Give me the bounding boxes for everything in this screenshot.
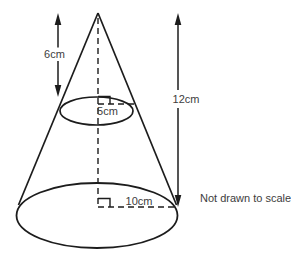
base-ellipse <box>17 183 178 248</box>
cone-diagram-canvas: 6cm 12cm 5cm 10cm Not drawn to scale <box>0 0 291 261</box>
not-drawn-to-scale-note: Not drawn to scale <box>200 192 291 204</box>
arrow-up-icon <box>175 13 182 25</box>
right-angle-marker-base <box>98 199 110 208</box>
cross-section-radius-label: 5cm <box>97 105 118 117</box>
arrow-up-icon <box>55 13 62 25</box>
base-radius-label: 10cm <box>126 195 153 207</box>
upper-height-label: 6cm <box>44 48 65 60</box>
cone-diagram: 6cm 12cm 5cm 10cm Not drawn to scale <box>0 0 291 261</box>
total-height-label: 12cm <box>173 93 200 105</box>
arrow-down-icon <box>55 85 62 97</box>
total-height-arrow <box>175 13 182 207</box>
